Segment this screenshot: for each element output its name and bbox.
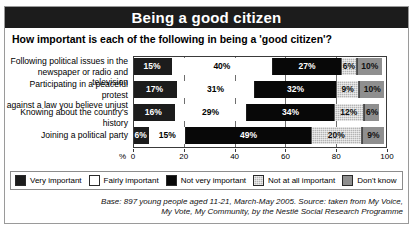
bar-segment: 29%	[174, 104, 248, 121]
axis-tick-label: 100	[380, 152, 393, 161]
bar-segment-label: 9%	[337, 85, 358, 94]
bar-segment: 16%	[133, 104, 174, 121]
bar-segment: 31%	[176, 81, 255, 98]
axis-tick-label: 80	[332, 152, 341, 161]
bar-segment: 12%	[334, 104, 364, 121]
category-label-line: Knowing about the country's history	[20, 107, 128, 128]
legend-item[interactable]: Very important	[15, 175, 82, 186]
caption-line-2: My Vote, My Community, by the Nestlé Soc…	[161, 207, 403, 216]
x-axis: 020406080100	[133, 149, 387, 163]
axis-tick-label: 40	[230, 152, 239, 161]
bar-segment-label: 40%	[172, 62, 272, 71]
legend-item[interactable]: Not at all important	[253, 175, 335, 186]
page-title: Being a good citizen	[132, 9, 282, 26]
legend-swatch	[253, 175, 264, 186]
bar-segment: 17%	[133, 81, 176, 98]
axis-tick-label: 60	[281, 152, 290, 161]
caption-line-1: Base: 897 young people aged 11-21, March…	[101, 197, 403, 206]
bar-segment: 6%	[133, 127, 148, 144]
chart-legend: Very importantFairly importantNot very i…	[10, 171, 403, 190]
legend-label: Not at all important	[268, 176, 335, 185]
title-bar: Being a good citizen	[5, 7, 408, 28]
bar-segment-label: 29%	[175, 108, 247, 117]
legend-item[interactable]: Not very important	[166, 175, 246, 186]
bar-segment: 15%	[148, 127, 186, 144]
category-label-line: Joining a political party	[41, 130, 128, 140]
legend-label: Don't know	[357, 176, 396, 185]
legend-swatch	[342, 175, 353, 186]
bar-segment-label: 15%	[133, 62, 171, 71]
bar-segment: 20%	[311, 127, 362, 144]
bar-segment-label: 12%	[335, 108, 363, 117]
category-label-line: Following political issues in the	[10, 56, 128, 66]
bar-segment: 9%	[336, 81, 359, 98]
bar-segment-label: 16%	[133, 108, 174, 117]
bar-segment-label: 6%	[365, 108, 379, 117]
bar-segment: 40%	[171, 58, 273, 75]
bar-segment-label: 27%	[273, 62, 342, 71]
axis-tick-label: 20	[179, 152, 188, 161]
legend-swatch	[166, 175, 177, 186]
bar-segment: 49%	[186, 127, 310, 144]
bar-row: 16%29%34%12%6%	[133, 104, 387, 121]
chart-subtitle: How important is each of the following i…	[12, 33, 332, 45]
category-label: Knowing about the country's history	[6, 107, 128, 128]
source-caption: Base: 897 young people aged 11-21, March…	[60, 197, 403, 217]
bar-segment: 34%	[247, 104, 333, 121]
bar-segment-label: 10%	[360, 85, 384, 94]
bar-segment-label: 49%	[186, 131, 310, 140]
bar-segment: 15%	[133, 58, 171, 75]
bar-segment-label: 6%	[133, 131, 148, 140]
legend-item[interactable]: Don't know	[342, 175, 396, 186]
bar-segment-label: 17%	[133, 85, 176, 94]
bar-segment: 32%	[255, 81, 336, 98]
bar-segment: 27%	[273, 58, 342, 75]
bar-row: 6%15%49%20%9%	[133, 127, 387, 144]
bar-segment: 10%	[359, 81, 384, 98]
legend-label: Not very important	[181, 176, 246, 185]
legend-swatch	[89, 175, 100, 186]
category-label-line: Participating in a peaceful protest	[30, 79, 128, 100]
axis-tick-label: 0	[131, 152, 135, 161]
bar-segment: 10%	[357, 58, 382, 75]
category-label: Joining a political party	[6, 130, 128, 141]
bar-segment-label: 34%	[247, 108, 333, 117]
bar-segment-label: 6%	[342, 62, 355, 71]
bar-row: 17%31%32%9%10%	[133, 81, 387, 98]
bar-segment: 6%	[364, 104, 379, 121]
legend-label: Fairly important	[104, 176, 159, 185]
bar-segment-label: 15%	[149, 131, 185, 140]
bar-segment-label: 20%	[312, 131, 361, 140]
bar-row: 15%40%27%6%10%	[133, 58, 387, 75]
legend-label: Very important	[30, 176, 82, 185]
bar-segment-label: 10%	[358, 62, 382, 71]
category-label-column: Following political issues in thenewspap…	[0, 56, 128, 148]
legend-swatch	[15, 175, 26, 186]
bar-segment: 6%	[341, 58, 356, 75]
bar-segment-label: 31%	[177, 85, 254, 94]
category-label: Participating in a peaceful protestagain…	[6, 79, 128, 111]
axis-unit-label: %	[119, 152, 126, 161]
legend-item[interactable]: Fairly important	[89, 175, 159, 186]
chart-plot-area: 15%40%27%6%10%17%31%32%9%10%16%29%34%12%…	[133, 56, 387, 148]
bar-segment: 9%	[362, 127, 385, 144]
bar-segment-label: 32%	[255, 85, 336, 94]
bar-segment-label: 9%	[363, 131, 385, 140]
